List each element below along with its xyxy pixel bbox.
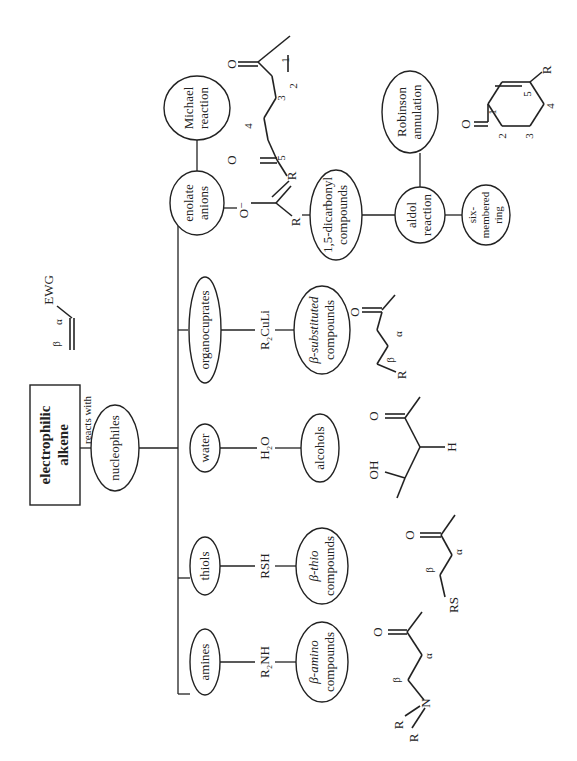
node-aldol-reaction: aldol reaction [395, 187, 445, 243]
svg-text:2: 2 [496, 133, 508, 139]
svg-text:β-amino: β-amino [306, 640, 321, 685]
svg-text:O: O [224, 59, 239, 68]
svg-text:R: R [284, 171, 299, 180]
svg-text:alcohols: alcohols [312, 426, 327, 469]
reagent-h2o: H₂O [257, 436, 272, 459]
alpha-label: α [52, 319, 64, 325]
node-six-membered-ring: six- membered ring [462, 185, 510, 245]
svg-text:α: α [392, 331, 404, 337]
node-thiols: thiols [190, 537, 220, 595]
node-water: water [190, 424, 220, 472]
svg-text:thiols: thiols [197, 552, 212, 581]
svg-text:H: H [444, 442, 459, 451]
svg-text:compounds: compounds [322, 300, 337, 360]
product-alcohols: alcohols [301, 414, 339, 482]
alcohol-structure: OH H O [366, 397, 459, 498]
reagent-r2nh: R₂NH [257, 646, 272, 678]
svg-text:R: R [539, 65, 554, 74]
root-line2: alkene [55, 424, 71, 466]
svg-text:O: O [366, 411, 381, 420]
node-amines: amines [190, 629, 220, 695]
svg-text:Michael: Michael [181, 86, 196, 129]
svg-text:2: 2 [287, 83, 299, 89]
node-organocuprates: organocuprates [189, 277, 221, 383]
svg-text:5: 5 [275, 155, 287, 161]
svg-text:R: R [288, 217, 303, 226]
svg-text:amines: amines [197, 644, 212, 681]
svg-text:O: O [347, 307, 362, 316]
ewg-label: EWG [41, 275, 56, 305]
hub-label: nucleophiles [107, 415, 122, 481]
svg-text:O: O [224, 155, 239, 164]
svg-text:N: N [418, 698, 433, 708]
alkene-structure: β α EWG [41, 275, 74, 350]
product-beta-substituted: β-substituted compounds [294, 286, 350, 374]
svg-text:organocuprates: organocuprates [197, 290, 212, 369]
svg-text:enolate: enolate [181, 184, 196, 222]
svg-text:β: β [390, 677, 402, 683]
cyclohexenone-structure: O R 1 2 3 4 5 [458, 65, 556, 138]
svg-text:4: 4 [544, 103, 556, 109]
svg-text:ring: ring [492, 206, 504, 224]
enolate-structure: O⁻ R [236, 181, 303, 226]
svg-text:β: β [423, 567, 435, 573]
thio-structure: RS β α O [402, 515, 464, 613]
reagent-rsh: RSH [257, 553, 272, 578]
svg-text:R: R [394, 370, 409, 379]
root-line1: electrophilic [37, 405, 53, 484]
svg-text:reaction: reaction [419, 194, 434, 236]
svg-text:O: O [370, 627, 385, 636]
svg-text:reaction: reaction [196, 87, 211, 129]
beta-substituted-structure: R β α O [347, 295, 409, 379]
diagram-canvas: electrophilic alkene β α EWG reacts with… [0, 0, 577, 761]
dicarbonyl-structure: O R 5 4 3 2 O 1 [224, 36, 299, 180]
svg-text:six-: six- [466, 206, 478, 223]
hub-node-nucleophiles: nucleophiles [91, 405, 139, 491]
svg-text:water: water [197, 433, 212, 463]
svg-text:O: O [458, 119, 473, 128]
svg-text:compounds: compounds [322, 536, 337, 596]
svg-text:β-thio: β-thio [306, 550, 321, 583]
svg-text:1,5-dicarbonyl: 1,5-dicarbonyl [320, 177, 335, 254]
svg-text:1: 1 [279, 57, 291, 63]
svg-text:3: 3 [275, 95, 287, 101]
node-robinson-annulation: Robinson annulation [382, 71, 438, 153]
svg-text:aldol: aldol [404, 202, 419, 228]
root-node: electrophilic alkene [30, 385, 80, 505]
product-beta-amino: β-amino compounds [296, 622, 348, 702]
product-1-5-dicarbonyl: 1,5-dicarbonyl compounds [310, 170, 362, 260]
svg-text:anions: anions [196, 186, 211, 220]
svg-text:Robinson: Robinson [394, 87, 409, 137]
reagent-r2culi: R₂CuLi [257, 310, 272, 350]
node-enolate-anions: enolate anions [170, 171, 224, 235]
svg-text:β-substituted: β-substituted [306, 296, 321, 365]
svg-text:R: R [391, 720, 406, 729]
svg-text:RS: RS [446, 597, 461, 613]
svg-text:5: 5 [521, 91, 533, 97]
svg-text:3: 3 [523, 133, 535, 139]
svg-text:annulation: annulation [409, 84, 424, 139]
node-michael-reaction: Michael reaction [164, 76, 230, 140]
svg-text:α: α [452, 549, 464, 555]
svg-text:1: 1 [486, 109, 498, 115]
svg-text:O: O [402, 530, 417, 539]
svg-text:compounds: compounds [335, 185, 350, 245]
product-beta-thio: β-thio compounds [296, 528, 348, 604]
svg-text:4: 4 [242, 123, 254, 129]
svg-text:OH: OH [366, 461, 381, 480]
svg-text:α: α [422, 653, 434, 659]
svg-text:membered: membered [479, 191, 491, 238]
beta-label: β [50, 341, 62, 347]
svg-text:R: R [406, 733, 421, 742]
svg-text:O⁻: O⁻ [236, 202, 251, 218]
svg-text:compounds: compounds [322, 632, 337, 692]
amino-structure: N R R β α O [370, 612, 434, 742]
svg-text:β: β [384, 357, 396, 363]
